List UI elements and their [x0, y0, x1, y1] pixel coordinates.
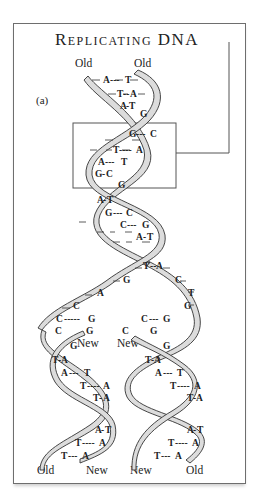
svg-text:G: G	[150, 326, 158, 336]
svg-text:T: T	[125, 75, 132, 85]
svg-text:A: A	[97, 288, 104, 298]
svg-text:A: A	[136, 232, 143, 242]
dna-helix-drawing: A---T T--A A-T G G---C T----A A---T G-C …	[0, 0, 254, 502]
svg-text:A: A	[99, 438, 106, 448]
svg-text:T: T	[75, 438, 82, 448]
svg-text:G: G	[163, 341, 171, 351]
svg-text:A: A	[130, 89, 137, 99]
svg-text:A: A	[196, 393, 203, 403]
fork-right-strand	[147, 262, 200, 360]
svg-text:G: G	[86, 326, 94, 336]
svg-text:A: A	[175, 451, 182, 461]
svg-text:----: ----	[119, 145, 132, 155]
svg-text:G: G	[142, 220, 150, 230]
svg-text:T: T	[177, 368, 184, 378]
svg-text:G: G	[88, 314, 96, 324]
svg-text:----: ----	[177, 381, 190, 391]
svg-text:-: -	[99, 393, 102, 403]
svg-text:-: -	[143, 232, 146, 242]
svg-text:T: T	[107, 195, 114, 205]
svg-text:G: G	[70, 341, 78, 351]
svg-text:T: T	[154, 451, 161, 461]
svg-text:---: ---	[110, 75, 120, 85]
svg-text:C: C	[73, 301, 80, 311]
svg-text:C: C	[126, 208, 133, 218]
svg-text:C: C	[55, 326, 62, 336]
svg-text:T: T	[168, 438, 175, 448]
svg-text:----: ----	[175, 438, 188, 448]
svg-text:C: C	[150, 129, 157, 139]
svg-text:T: T	[147, 232, 154, 242]
svg-text:T: T	[129, 101, 136, 111]
svg-text:G: G	[118, 180, 126, 190]
svg-text:----: ----	[82, 438, 95, 448]
svg-text:T: T	[188, 288, 195, 298]
svg-text:T: T	[61, 451, 68, 461]
svg-text:A: A	[103, 381, 110, 391]
svg-text:A: A	[61, 368, 68, 378]
svg-text:---: ---	[127, 220, 137, 230]
svg-text:G: G	[163, 314, 171, 324]
svg-text:---: ---	[136, 129, 146, 139]
svg-text:A: A	[98, 157, 105, 167]
svg-text:C: C	[122, 326, 129, 336]
svg-text:A: A	[192, 438, 199, 448]
svg-text:C: C	[106, 169, 113, 179]
svg-text:A: A	[103, 75, 110, 85]
svg-text:---: ---	[161, 451, 171, 461]
svg-text:---: ---	[105, 157, 115, 167]
svg-text:A: A	[82, 451, 89, 461]
svg-text:---: ---	[113, 208, 123, 218]
svg-text:A: A	[194, 381, 201, 391]
svg-text:T: T	[84, 368, 91, 378]
svg-text:C: C	[56, 314, 63, 324]
svg-text:A: A	[156, 261, 163, 271]
svg-text:A: A	[61, 355, 68, 365]
parent-base-letters: A---T T--A A-T G G---C T----A A---T G-C …	[73, 75, 195, 311]
svg-text:---: ---	[68, 451, 78, 461]
svg-text:T: T	[143, 261, 150, 271]
svg-text:---: ---	[163, 368, 173, 378]
svg-text:G: G	[123, 275, 131, 285]
svg-text:A: A	[103, 393, 110, 403]
callout-connector	[176, 42, 229, 153]
svg-text:---: ---	[69, 368, 79, 378]
svg-text:T: T	[121, 157, 128, 167]
svg-text:--: --	[123, 89, 129, 99]
svg-text:C: C	[120, 220, 127, 230]
svg-text:T: T	[170, 381, 177, 391]
daughter-right-pairs: T-A A---T T----A T-A A-T T----A T---A	[145, 355, 204, 461]
svg-text:-: -	[193, 425, 196, 435]
svg-text:-----: -----	[64, 314, 80, 324]
svg-text:T: T	[197, 425, 204, 435]
daughter-helix-right	[125, 336, 204, 470]
svg-text:----: ----	[87, 381, 100, 391]
svg-text:A: A	[136, 145, 143, 155]
svg-text:G: G	[184, 301, 192, 311]
svg-text:C: C	[141, 314, 148, 324]
svg-text:T: T	[105, 425, 112, 435]
svg-text:A: A	[155, 368, 162, 378]
svg-text:G: G	[140, 109, 148, 119]
svg-text:A: A	[154, 355, 161, 365]
svg-text:-: -	[102, 169, 105, 179]
svg-text:C: C	[175, 275, 182, 285]
replicating-dna-figure: Replicating DNA (a) Old Old New New Old …	[0, 0, 254, 502]
svg-text:---: ---	[149, 314, 159, 324]
svg-text:-: -	[101, 425, 104, 435]
svg-text:T: T	[80, 381, 87, 391]
svg-text:-: -	[103, 195, 106, 205]
svg-text:G: G	[105, 208, 113, 218]
